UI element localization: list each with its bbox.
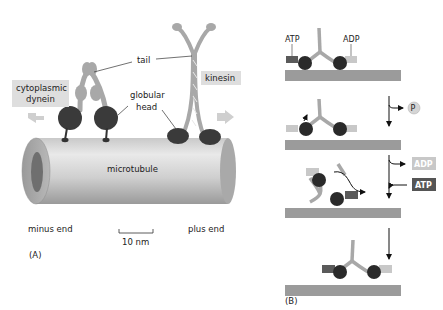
scale-bar-label: 10 nm: [122, 237, 149, 247]
panel-b: ATP ADP P ADP ATP: [285, 28, 436, 306]
plus-end-label: plus end: [188, 224, 224, 234]
plus-direction-arrow-icon: [217, 110, 234, 124]
adp-release-label: ADP: [414, 160, 433, 169]
globular-head-label-2: head: [136, 102, 157, 112]
kinesin-head-left: [167, 128, 189, 144]
adp-label: ADP: [343, 35, 360, 44]
track-3: [285, 208, 401, 218]
dynein-head-left: [58, 106, 82, 130]
step-1: ATP ADP: [285, 28, 401, 81]
dynein-label-2: dynein: [26, 94, 55, 104]
atp-bind-label: ATP: [415, 181, 432, 190]
kinesin-head-right: [199, 129, 221, 145]
panel-a-label: (A): [29, 250, 41, 260]
step-2: [285, 99, 401, 150]
track-4: [285, 285, 401, 296]
panel-a: microtubule: [12, 23, 241, 260]
step-4: [285, 240, 401, 296]
scale-bar: [119, 229, 153, 233]
minus-direction-arrow-icon: [28, 113, 44, 123]
globular-head-label-1: globular: [130, 90, 165, 100]
phosphate-label: P: [411, 104, 416, 113]
kinesin-label: kinesin: [205, 73, 235, 83]
dynein-label-1: cytoplasmic: [16, 83, 67, 93]
track-1: [285, 70, 401, 81]
panel-b-label: (B): [285, 296, 297, 306]
atp-box: [286, 56, 298, 63]
step-3: [285, 164, 401, 218]
atp-label: ATP: [285, 35, 300, 44]
track-2: [285, 140, 401, 150]
motor-protein-figure: microtubule: [0, 0, 443, 310]
minus-end-label: minus end: [28, 224, 73, 234]
microtubule: microtubule: [22, 138, 236, 204]
microtubule-label: microtubule: [107, 164, 158, 174]
dynein-head-right: [94, 106, 118, 130]
tail-label: tail: [137, 55, 150, 65]
